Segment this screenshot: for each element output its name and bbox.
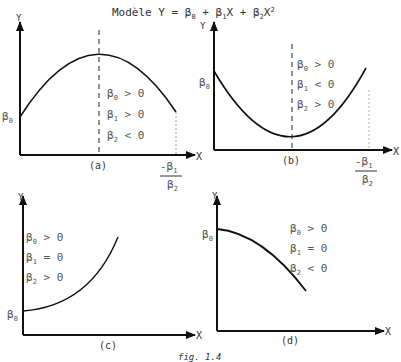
y-axis-label: Y	[200, 21, 206, 31]
intercept-label: β0	[7, 308, 18, 323]
figure-canvas: Modèle Y = β0 + β1X + β2X2 Y X β0 β0 > 0…	[0, 0, 401, 362]
y-axis-label: Y	[16, 13, 22, 23]
condition-b2: β2 > 0	[26, 271, 63, 286]
panel-a: Y X β0 β0 > 0 β1 > 0 β2 < 0 (a) -β1 β2	[2, 13, 202, 193]
panel-caption: (d)	[281, 335, 299, 346]
condition-b0: β0 > 0	[290, 222, 327, 237]
vertex-numerator: -β1	[355, 155, 372, 170]
panel-caption: (b)	[282, 155, 300, 166]
condition-b2: β2 > 0	[297, 98, 334, 113]
condition-b2: β2 < 0	[290, 262, 327, 277]
convex-parabola-curve	[214, 68, 366, 137]
decreasing-concave-curve	[217, 229, 306, 291]
condition-b0: β0 > 0	[26, 231, 63, 246]
panel-caption: (a)	[89, 160, 107, 171]
panel-d: Y X β0 β0 > 0 β1 = 0 β2 < 0 (d)	[202, 191, 391, 346]
panel-c: Y X β0 β0 > 0 β1 = 0 β2 > 0 (c)	[7, 192, 202, 351]
panel-b: Y X β0 β0 > 0 β1 < 0 β2 > 0 (b) -β1 β2	[199, 21, 399, 188]
condition-b1: β1 > 0	[107, 108, 144, 123]
x-axis-label: X	[196, 330, 202, 341]
panel-caption: (c)	[99, 340, 117, 351]
x-axis-label: X	[385, 326, 391, 337]
condition-b1: β1 = 0	[26, 251, 63, 266]
intercept-label: β0	[2, 110, 13, 125]
condition-b2: β2 < 0	[107, 129, 144, 144]
y-axis-label: Y	[18, 192, 24, 202]
concave-parabola-curve	[20, 54, 176, 117]
vertex-denominator: β2	[362, 173, 373, 188]
vertex-denominator: β2	[167, 178, 178, 193]
condition-b1: β1 < 0	[297, 78, 334, 93]
condition-b0: β0 > 0	[107, 87, 144, 102]
figure-caption: fig. 1.4	[178, 352, 221, 362]
intercept-label: β0	[199, 76, 210, 91]
intercept-label: β0	[202, 228, 213, 243]
x-axis-label: X	[393, 146, 399, 157]
condition-b1: β1 = 0	[290, 242, 327, 257]
y-axis-label: Y	[212, 191, 218, 201]
condition-b0: β0 > 0	[297, 58, 334, 73]
vertex-numerator: -β1	[160, 160, 177, 175]
model-title: Modèle Y = β0 + β1X + β2X2	[112, 6, 275, 21]
x-axis-label: X	[196, 151, 202, 162]
